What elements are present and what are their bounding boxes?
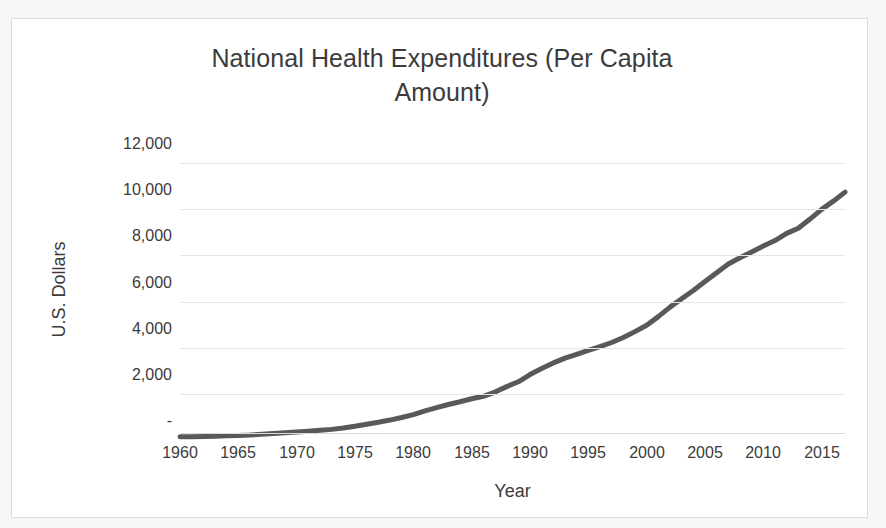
gridline [180, 209, 845, 210]
x-tick-label: 2015 [794, 443, 850, 463]
y-tick-label: 2,000 [82, 367, 172, 383]
x-tick-label: 1975 [327, 443, 383, 463]
chart-title: National Health Expenditures (Per Capita… [82, 41, 802, 109]
x-axis-title: Year [180, 481, 845, 502]
x-tick-label: 1990 [502, 443, 558, 463]
y-tick-label: 8,000 [82, 228, 172, 244]
plot-area [180, 163, 845, 434]
gridline [180, 348, 845, 349]
x-tick-label: 1970 [269, 443, 325, 463]
x-tick-label: 1960 [152, 443, 208, 463]
chart-title-line-1: National Health Expenditures (Per Capita [82, 41, 802, 75]
y-axis-title: U.S. Dollars [49, 220, 70, 360]
x-tick-label: 1995 [560, 443, 616, 463]
x-tick-label: 1985 [444, 443, 500, 463]
chart-frame: National Health Expenditures (Per Capita… [11, 18, 868, 518]
y-tick-label: 4,000 [82, 321, 172, 337]
y-tick-label: 12,000 [82, 136, 172, 152]
gridline [180, 255, 845, 256]
x-tick-label: 2010 [735, 443, 791, 463]
series-path [180, 192, 845, 437]
gridline [180, 302, 845, 303]
x-tick-label: 2000 [619, 443, 675, 463]
y-tick-label: 10,000 [82, 182, 172, 198]
y-tick-label: - [82, 413, 172, 429]
x-tick-label: 1980 [385, 443, 441, 463]
x-axis-tick-labels: 1960196519701975198019851990199520002005… [180, 443, 845, 465]
x-tick-label: 2005 [677, 443, 733, 463]
chart-page: National Health Expenditures (Per Capita… [0, 0, 886, 528]
gridline [180, 163, 845, 164]
category-axis-line [180, 433, 845, 434]
y-tick-label: 6,000 [82, 275, 172, 291]
chart-title-line-2: Amount) [82, 75, 802, 109]
x-tick-label: 1965 [210, 443, 266, 463]
gridline [180, 394, 845, 395]
